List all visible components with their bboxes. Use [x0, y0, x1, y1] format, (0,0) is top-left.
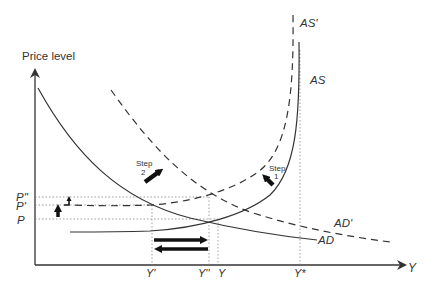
ad-prime-label: AD' — [333, 217, 353, 229]
as-prime-label: AS' — [299, 17, 318, 29]
step2-label-line1: Step — [136, 159, 153, 168]
tick-y-double-prime: Y'' — [198, 267, 210, 279]
tick-y: Y — [218, 267, 226, 279]
as-curve — [70, 42, 299, 232]
step2-label-line2: 2 — [141, 168, 146, 177]
ad-as-diagram: Price level Y P'' P' P Y' Y'' Y Y* AS' A… — [0, 0, 438, 289]
step1-arrow — [265, 177, 273, 185]
as-label: AS — [309, 74, 326, 86]
y-axis-label: Price level — [22, 50, 75, 62]
step2-arrow — [145, 171, 160, 182]
x-axis-label: Y — [408, 261, 417, 275]
tick-y-prime: Y' — [146, 267, 156, 279]
tick-y-star: Y* — [294, 267, 306, 279]
ad-label: AD — [317, 234, 334, 246]
as-prime-curve — [72, 15, 293, 206]
step1-label-line2: 1 — [274, 172, 279, 181]
tick-p: P — [17, 214, 25, 226]
tick-p-prime: P' — [16, 200, 27, 212]
